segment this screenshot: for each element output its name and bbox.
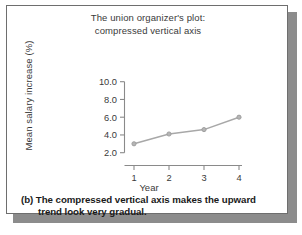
figure-root: The union organizer's plot: compressed v… [0, 0, 302, 235]
figure-caption: (b) The compressed vertical axis makes t… [21, 194, 279, 219]
y-axis-label: Mean salary increase (%) [23, 31, 34, 161]
data-point-marker [167, 132, 171, 136]
data-point-markers [132, 115, 241, 146]
line-chart-svg: 10.0 8.0 6.0 4.0 2.0 [7, 38, 289, 183]
y-tick-label: 2.0 [104, 148, 117, 158]
plot-area: Mean salary increase (%) 10.0 8.0 6.0 4.… [7, 38, 289, 183]
chart-title-line-1: The union organizer's plot: [7, 12, 289, 25]
y-tick-labels: 10.0 8.0 6.0 4.0 2.0 [99, 77, 117, 158]
x-axis-label: Year [79, 182, 219, 193]
data-point-marker [237, 115, 241, 119]
y-tick-label: 10.0 [99, 77, 117, 87]
card-shadow-right [288, 12, 297, 223]
data-point-marker [202, 128, 206, 132]
y-tick-label: 4.0 [104, 130, 117, 140]
x-axis [125, 166, 243, 171]
data-point-marker [132, 142, 136, 146]
x-tick-label: 4 [236, 173, 241, 183]
y-axis [120, 82, 125, 153]
y-tick-label: 6.0 [104, 113, 117, 123]
chart-title: The union organizer's plot: compressed v… [7, 12, 289, 37]
data-line-series-1 [134, 117, 239, 144]
figure-card: The union organizer's plot: compressed v… [6, 5, 288, 214]
y-tick-label: 8.0 [104, 95, 117, 105]
caption-line-1: (b) The compressed vertical axis makes t… [21, 194, 279, 206]
chart-title-line-2: compressed vertical axis [7, 25, 289, 38]
caption-line-2: trend look very gradual. [21, 206, 279, 218]
